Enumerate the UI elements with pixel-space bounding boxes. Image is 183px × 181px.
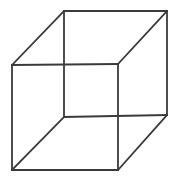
cube-edge-front-top: [12, 64, 118, 65]
cube-wireframe-canvas: [0, 0, 183, 181]
necker-cube-figure: [0, 0, 183, 181]
